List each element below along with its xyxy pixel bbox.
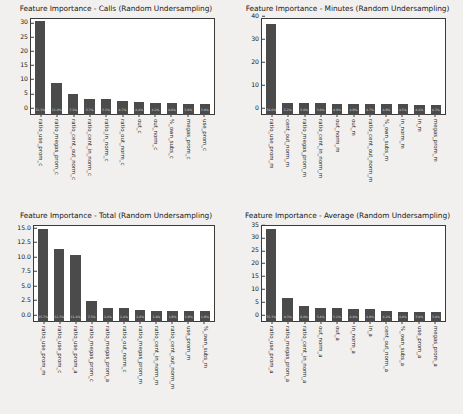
bar-value-label: 4.9% — [333, 109, 341, 112]
bar[interactable]: 5.2% — [282, 103, 293, 115]
bar[interactable]: 9.3% — [282, 298, 293, 322]
xtick-label-average: ratio_cent_in_norm_a — [301, 326, 307, 383]
bar[interactable]: 4.0% — [398, 312, 409, 322]
bar[interactable]: 12.3% — [54, 249, 64, 322]
bar[interactable]: 11.0% — [51, 83, 62, 115]
bar-value-label: 9.3% — [284, 316, 292, 319]
bar-slot: 4.0% — [395, 225, 411, 322]
bar-value-label: 3.9% — [432, 316, 440, 319]
bar-slot: 9.3% — [279, 225, 295, 322]
bar[interactable]: 3.9% — [183, 104, 194, 115]
ytick-label-total: 12.5 — [17, 239, 34, 246]
bar-group-average: 35.3%9.3%6.0%5.4%5.2%4.9%4.9%4.2%4.0%3.9… — [261, 225, 446, 322]
bar[interactable]: 39.0% — [266, 24, 277, 115]
bar[interactable]: 35.3% — [266, 229, 277, 322]
bar[interactable]: 1.8% — [167, 311, 177, 322]
bar-slot: 4.7% — [362, 18, 378, 115]
bar[interactable]: 5.2% — [332, 308, 343, 322]
bar[interactable]: 4.6% — [381, 104, 392, 115]
bar[interactable]: 3.9% — [200, 104, 211, 115]
bar[interactable]: 4.5% — [398, 104, 409, 115]
bar-group-total: 15.7%12.3%11.4%3.5%2.4%2.4%2.0%1.9%1.8%1… — [33, 225, 215, 322]
bar-value-label: 6.0% — [300, 316, 308, 319]
bar-value-label: 4.8% — [350, 109, 358, 112]
bar-value-label: 3.9% — [415, 316, 423, 319]
bar[interactable]: 1.8% — [200, 311, 210, 322]
xtick-label-average: cent_out_norm_a — [383, 326, 389, 372]
bar[interactable]: 4.0% — [167, 103, 178, 115]
bar-value-label: 1.8% — [201, 316, 209, 319]
xtick-label-minutes: ratio_megas_prom_m — [301, 119, 307, 177]
xtick-label-average: out_a — [334, 326, 340, 341]
bar[interactable]: 5.7% — [84, 99, 95, 116]
bar[interactable]: 1.9% — [151, 311, 161, 322]
xtick-label-minutes: megas_prom_m — [433, 119, 439, 162]
bar-value-label: 39.0% — [266, 109, 276, 112]
bar[interactable]: 4.7% — [117, 101, 128, 115]
bar[interactable]: 4.9% — [365, 309, 376, 322]
xtick-label-average: ratio_megas_prom_a — [285, 326, 291, 382]
bar-value-label: 5.4% — [317, 316, 325, 319]
bar-value-label: 4.2% — [151, 109, 159, 112]
bar[interactable]: 3.9% — [414, 312, 425, 322]
bar[interactable]: 5.4% — [315, 308, 326, 322]
bar[interactable]: 7.1% — [68, 94, 79, 115]
bar-value-label: 1.9% — [152, 316, 160, 319]
bar-group-calls: 32.3%11.0%7.1%5.7%5.5%4.7%4.4%4.2%4.0%3.… — [30, 18, 215, 115]
bar[interactable]: 4.3% — [431, 105, 442, 115]
xtick-label-total: ratio_use_prom_a — [72, 326, 78, 373]
bar[interactable]: 3.9% — [431, 312, 442, 322]
xtick-label-minutes: out_m — [350, 119, 356, 136]
plot-area-calls: 051015202530 32.3%11.0%7.1%5.7%5.5%4.7%4… — [30, 18, 215, 115]
bar-value-label: 4.7% — [366, 109, 374, 112]
bar[interactable]: 5.5% — [101, 99, 112, 115]
bar-value-label: 2.4% — [120, 316, 128, 319]
bar-value-label: 1.8% — [169, 316, 177, 319]
bar-value-label: 32.3% — [35, 109, 45, 112]
bar[interactable]: 3.5% — [86, 301, 96, 322]
xtick-label-calls: ratio_in_norm_c — [103, 119, 109, 161]
bar[interactable]: 1.8% — [184, 311, 194, 322]
bar-value-label: 5.2% — [333, 316, 341, 319]
xtick-label-calls: %_own_subs_c — [169, 119, 175, 159]
bar-slot: 4.4% — [131, 18, 147, 115]
bar[interactable]: 5.0% — [315, 103, 326, 115]
bar-value-label: 5.5% — [102, 109, 110, 112]
bar[interactable]: 6.0% — [299, 306, 310, 322]
bar-slot: 4.2% — [378, 225, 394, 322]
subplot-title-minutes: Feature Importance - Minutes (Random Und… — [232, 4, 463, 14]
bar[interactable]: 4.2% — [150, 103, 161, 115]
bar-value-label: 4.5% — [399, 109, 407, 112]
bar[interactable]: 4.8% — [348, 104, 359, 115]
bar[interactable]: 4.9% — [348, 309, 359, 322]
xtick-label-total: ratio_cent_out_norm_m — [170, 326, 176, 389]
bar[interactable]: 4.4% — [134, 102, 145, 115]
bar-value-label: 2.4% — [104, 316, 112, 319]
bar-slot: 4.5% — [395, 18, 411, 115]
xtick-label-total: use_prom_m — [186, 326, 192, 360]
bar-slot: 15.7% — [35, 225, 51, 322]
bar-value-label: 5.7% — [86, 109, 94, 112]
bar[interactable]: 32.3% — [35, 21, 46, 115]
bar[interactable]: 11.4% — [70, 255, 80, 322]
ytick-label-total: 10.0 — [17, 253, 34, 260]
bar-slot: 7.1% — [65, 18, 81, 115]
bar-slot: 4.4% — [411, 18, 427, 115]
bar[interactable]: 5.0% — [299, 103, 310, 115]
bar[interactable]: 4.9% — [332, 104, 343, 115]
bar[interactable]: 4.7% — [365, 104, 376, 115]
bar[interactable]: 4.4% — [414, 105, 425, 115]
xtick-label-calls: out_norm_c — [152, 119, 158, 150]
bar[interactable]: 4.2% — [381, 311, 392, 322]
subplot-calls: Feature Importance - Calls (Random Under… — [0, 4, 232, 207]
bar[interactable]: 2.0% — [135, 310, 145, 322]
xtick-label-minutes: %_own_subs_m — [383, 119, 389, 161]
bar-slot: 1.8% — [165, 225, 181, 322]
bar[interactable]: 2.4% — [119, 308, 129, 322]
xtick-label-total: ratio_use_prom_c — [56, 326, 62, 373]
xtick-label-total: ratio_out_norm_c — [121, 326, 127, 372]
bar[interactable]: 2.4% — [103, 308, 113, 322]
bar-slot: 35.3% — [263, 225, 279, 322]
bar[interactable]: 15.7% — [38, 229, 48, 322]
xtick-label-total: %_own_subs_m — [202, 326, 208, 368]
